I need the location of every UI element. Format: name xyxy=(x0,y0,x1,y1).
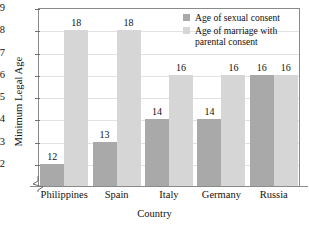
chart-legend: Age of sexual consent Age of marriage wi… xyxy=(183,12,305,49)
y-axis-tick-label: 18 xyxy=(0,25,5,36)
bar[interactable] xyxy=(250,75,274,186)
bar-value-label: 16 xyxy=(221,63,245,73)
y-axis-tick-label: 19 xyxy=(0,3,5,14)
x-axis-line xyxy=(30,186,308,187)
y-axis-tick-label: 17 xyxy=(0,48,5,59)
legend-swatch-icon xyxy=(183,14,190,21)
legend-label: Age of marriage with parental consent xyxy=(195,25,305,47)
legend-swatch-icon xyxy=(183,27,190,34)
bar-chart: Minimum Legal Age 1213141516171819 12181… xyxy=(0,0,309,227)
bar-value-label: 16 xyxy=(169,63,193,73)
bar-value-label: 18 xyxy=(64,18,88,28)
x-axis-tick-label: Russia xyxy=(248,189,300,200)
bar[interactable] xyxy=(274,75,298,186)
bar[interactable] xyxy=(197,119,221,186)
y-axis-tick-label: 14 xyxy=(0,114,5,125)
x-axis-tick-label: Spain xyxy=(90,189,142,200)
bar-group: 1218 xyxy=(40,8,88,186)
bar[interactable] xyxy=(40,164,64,186)
y-axis-tick-label: 16 xyxy=(0,70,5,81)
bar-value-label: 16 xyxy=(274,63,298,73)
y-axis-tick-label: 12 xyxy=(0,159,5,170)
bar-value-label: 14 xyxy=(197,107,221,117)
legend-item-0: Age of sexual consent xyxy=(183,12,305,23)
legend-item-1: Age of marriage with parental consent xyxy=(183,25,305,47)
x-axis-tick-label: Philippines xyxy=(38,189,90,200)
bar-value-label: 18 xyxy=(117,18,141,28)
bar[interactable] xyxy=(145,119,169,186)
bar-value-label: 13 xyxy=(93,130,117,140)
bar[interactable] xyxy=(221,75,245,186)
x-axis-tick-label: Italy xyxy=(143,189,195,200)
bar-value-label: 14 xyxy=(145,107,169,117)
bar[interactable] xyxy=(64,30,88,186)
x-axis-tick-label: Germany xyxy=(195,189,247,200)
bar[interactable] xyxy=(117,30,141,186)
bar-value-label: 16 xyxy=(250,63,274,73)
y-axis-title: Minimum Legal Age xyxy=(13,22,24,182)
bar[interactable] xyxy=(169,75,193,186)
bar-value-label: 12 xyxy=(40,152,64,162)
x-axis-title: Country xyxy=(0,208,309,219)
bar[interactable] xyxy=(93,142,117,187)
bar-group: 1318 xyxy=(93,8,141,186)
legend-label: Age of sexual consent xyxy=(195,12,280,23)
y-axis-tick-label: 15 xyxy=(0,92,5,103)
y-axis-tick-label: 13 xyxy=(0,137,5,148)
